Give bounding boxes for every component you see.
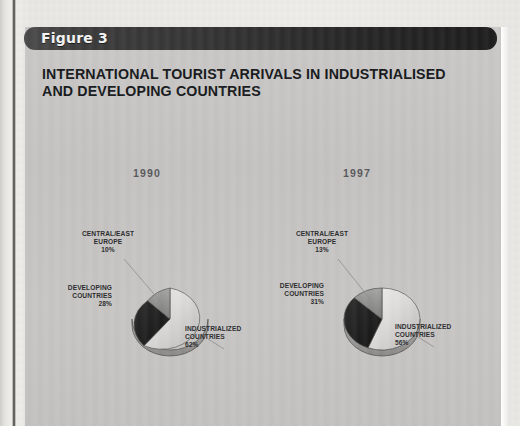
pie-label-name: DEVELOPING [68,284,112,291]
figure-banner: Figure 3 [24,27,497,50]
book-spine-line [12,0,16,426]
pie-chart-1990: 1990 [32,167,262,367]
pie-label-central-east-europe-1990: CENTRAL/EAST EUROPE 10% [72,230,144,255]
pie-chart-1997: 1997 [242,167,472,367]
pie-label-name2: COUNTRIES [395,331,435,338]
pie-label-name: CENTRAL/EAST [82,230,134,237]
pie-graphic-1990: CENTRAL/EAST EUROPE 10% DEVELOPING COUNT… [32,167,262,367]
leader-line-cee-1997 [338,259,370,299]
pie-label-name2: EUROPE [308,238,336,245]
pie-label-pct: 13% [286,246,358,254]
figure-title-line-2: AND DEVELOPING COUNTRIES [42,83,482,100]
pie-label-pct: 56% [395,339,481,347]
figure-number-label: Figure 3 [41,30,108,46]
pie-label-pct: 28% [28,300,112,308]
pie-label-industrialized-1997: INDUSTRIALIZED COUNTRIES 56% [395,323,481,348]
leader-line-cee-1990 [124,259,160,301]
pie-label-name: INDUSTRIALIZED [185,325,241,332]
figure-title: INTERNATIONAL TOURIST ARRIVALS IN INDUST… [42,66,482,100]
pie-label-name: DEVELOPING [280,282,324,289]
pie-label-name: CENTRAL/EAST [296,230,348,237]
pie-label-developing-1997: DEVELOPING COUNTRIES 31% [240,282,324,307]
pie-label-name2: COUNTRIES [185,333,225,340]
pie-label-name: INDUSTRIALIZED [395,323,451,330]
pie-label-name2: COUNTRIES [72,292,112,299]
figure-title-line-1: INTERNATIONAL TOURIST ARRIVALS IN INDUST… [42,66,482,83]
pie-label-name2: EUROPE [94,238,122,245]
figure-card: Figure 3 INTERNATIONAL TOURIST ARRIVALS … [24,27,501,426]
pie-label-developing-1990: DEVELOPING COUNTRIES 28% [28,284,112,309]
pie-label-pct: 31% [240,298,324,306]
pie-label-pct: 10% [72,246,144,254]
pie-graphic-1997: CENTRAL/EAST EUROPE 13% DEVELOPING COUNT… [242,167,472,367]
pie-label-name2: COUNTRIES [284,290,324,297]
card-right-edge [501,27,508,426]
pie-label-central-east-europe-1997: CENTRAL/EAST EUROPE 13% [286,230,358,255]
